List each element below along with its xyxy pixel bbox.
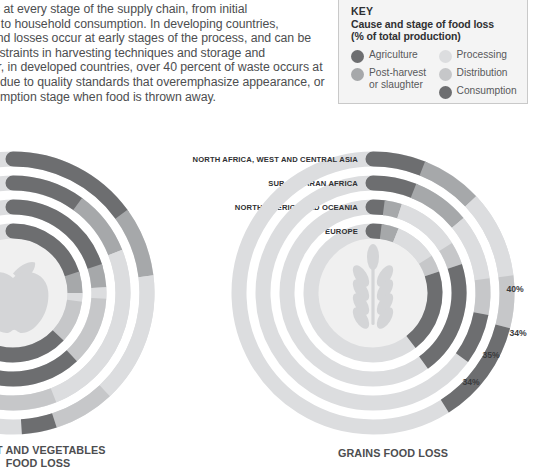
ring-segment: [425, 260, 432, 274]
key-column-right: Processing Distribution Consumption: [439, 49, 517, 103]
grains-radial-chart: EUROPENORTH AMERICA AND OCEANIASUB-SAHAR…: [228, 118, 548, 448]
ring-segment: [72, 274, 75, 293]
key-item-distribution: Distribution: [439, 67, 517, 81]
consumption-swatch-icon: [439, 86, 452, 99]
key-column-left: Agriculture Post-harvest or slaughter: [351, 49, 439, 103]
key-item-agriculture: Agriculture: [351, 49, 439, 63]
key-item-label: Agriculture: [369, 49, 418, 61]
key-title: KEY: [351, 5, 517, 18]
category-label: NORTH AFRICA, WEST AND CENTRAL ASIA: [193, 155, 359, 164]
ring-segment: [481, 279, 483, 313]
key-subtitle-line2: (% of total production): [351, 30, 517, 42]
ring-segment: [373, 207, 384, 208]
key-item-label: Post-harvest or slaughter: [369, 67, 426, 90]
percentage-label: 34%: [462, 377, 480, 387]
ring-segment: [21, 420, 54, 426]
chart-grains: EUROPENORTH AMERICA AND OCEANIASUB-SAHAR…: [228, 118, 548, 448]
key-items: Agriculture Post-harvest or slaughter Pr…: [351, 49, 517, 103]
caption-line-2: FOOD LOSS: [0, 457, 188, 470]
percentage-label: 35%: [482, 350, 500, 360]
key-subtitle-line1: Cause and stage of food loss: [351, 18, 517, 30]
post-harvest-swatch-icon: [351, 68, 364, 81]
ring-segment: [446, 247, 455, 267]
category-label: EUROPE: [325, 227, 358, 236]
key-item-label: Distribution: [457, 67, 508, 79]
intro-paragraph: Food loss occurs at every stage of the s…: [0, 2, 328, 104]
agriculture-swatch-icon: [351, 50, 364, 63]
ring-segment: [95, 266, 99, 287]
ring-segment: [381, 231, 396, 235]
percentage-label: 34%: [509, 328, 527, 338]
key-item-post-harvest: Post-harvest or slaughter: [351, 67, 439, 90]
chart-grains-caption: GRAINS FOOD LOSS: [293, 447, 493, 460]
ring-segment: [373, 183, 413, 191]
chart-fruit-vegetables: EUROPENORTH AMERICA AND OCEANIASUB-SAHAR…: [0, 118, 185, 448]
key-item-label: Consumption: [457, 85, 517, 97]
chart-fruit-caption: FRUIT AND VEGETABLES FOOD LOSS: [0, 444, 188, 469]
key-legend-box: KEY Cause and stage of food loss (% of t…: [338, 0, 528, 104]
infographic-root: Food loss occurs at every stage of the s…: [0, 0, 548, 473]
caption-line-1: GRAINS FOOD LOSS: [293, 447, 493, 460]
distribution-swatch-icon: [439, 68, 452, 81]
fruit-vegetables-radial-chart: EUROPENORTH AMERICA AND OCEANIASUB-SAHAR…: [0, 118, 185, 448]
key-item-label: Processing: [457, 49, 507, 61]
ring-segment: [462, 314, 481, 358]
key-item-processing: Processing: [439, 49, 517, 63]
caption-line-1: FRUIT AND VEGETABLES: [0, 444, 188, 457]
ring-segment: [384, 208, 400, 212]
key-item-consumption: Consumption: [439, 85, 517, 99]
ring-segment: [373, 159, 422, 168]
percentage-label: 40%: [506, 284, 524, 294]
processing-swatch-icon: [439, 50, 452, 63]
